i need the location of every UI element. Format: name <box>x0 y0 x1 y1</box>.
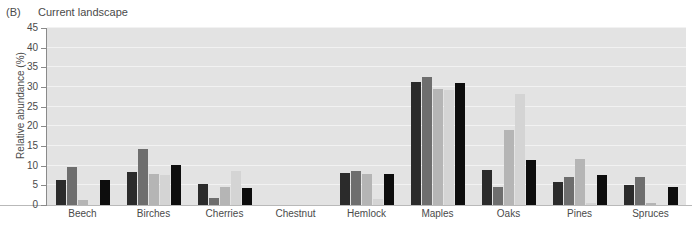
bar <box>67 167 77 205</box>
y-tick-label: 30 <box>0 81 38 92</box>
bar <box>564 177 574 205</box>
y-tick-label: 35 <box>0 61 38 72</box>
y-tick <box>41 205 47 206</box>
bar <box>624 185 634 205</box>
x-tick-label: Oaks <box>473 208 544 219</box>
x-tick-label: Hemlock <box>331 208 402 219</box>
x-axis-line <box>0 205 692 206</box>
bar <box>635 177 645 205</box>
y-tick <box>41 126 47 127</box>
y-tick <box>41 48 47 49</box>
bar <box>100 180 110 205</box>
bar <box>553 182 563 205</box>
bar <box>138 149 148 205</box>
bar <box>242 188 252 205</box>
x-tick-label: Maples <box>402 208 473 219</box>
y-tick <box>41 67 47 68</box>
y-tick <box>41 107 47 108</box>
bar-group <box>544 28 615 205</box>
y-tick <box>41 185 47 186</box>
bar-group <box>331 28 402 205</box>
bar <box>231 171 241 205</box>
chart-figure: (B) Current landscape Relative abundance… <box>0 0 692 232</box>
y-tick <box>41 87 47 88</box>
bar <box>198 184 208 205</box>
y-tick-label: 45 <box>0 22 38 33</box>
bar <box>127 172 137 205</box>
y-tick-label: 10 <box>0 160 38 171</box>
bar <box>56 180 66 205</box>
bar <box>597 175 607 205</box>
x-tick-label: Birches <box>118 208 189 219</box>
x-tick-label: Chestnut <box>260 208 331 219</box>
bar <box>171 165 181 205</box>
bar <box>362 174 372 205</box>
bar <box>493 187 503 205</box>
bar <box>220 187 230 205</box>
bar-group <box>47 28 118 205</box>
y-tick-label: 0 <box>0 199 38 210</box>
bar <box>422 77 432 205</box>
bar-group <box>189 28 260 205</box>
bar <box>515 94 525 205</box>
y-tick-label: 15 <box>0 140 38 151</box>
bar <box>351 171 361 205</box>
bar-group <box>473 28 544 205</box>
panel-title: Current landscape <box>38 6 128 18</box>
y-tick-label: 20 <box>0 120 38 131</box>
bar <box>504 130 514 205</box>
y-tick-label: 40 <box>0 42 38 53</box>
bar <box>149 174 159 205</box>
bar <box>209 198 219 205</box>
bar-group <box>402 28 473 205</box>
x-tick-label: Beech <box>47 208 118 219</box>
plot-area <box>47 28 686 205</box>
bar <box>575 159 585 205</box>
bar <box>444 90 454 205</box>
bar <box>433 89 443 205</box>
y-axis-line <box>46 28 47 206</box>
bar <box>526 160 536 205</box>
bar-group <box>118 28 189 205</box>
bar-group <box>260 28 331 205</box>
y-tick <box>41 28 47 29</box>
x-tick-label: Cherries <box>189 208 260 219</box>
y-tick-label: 25 <box>0 101 38 112</box>
y-tick <box>41 146 47 147</box>
bar <box>482 170 492 205</box>
x-tick-label: Spruces <box>615 208 686 219</box>
bar <box>411 82 421 205</box>
bar <box>340 173 350 205</box>
y-tick <box>41 166 47 167</box>
bar <box>668 187 678 205</box>
y-tick-label: 5 <box>0 179 38 190</box>
bar-group <box>615 28 686 205</box>
bar <box>384 174 394 205</box>
x-tick-label: Pines <box>544 208 615 219</box>
bar <box>455 83 465 205</box>
bar <box>160 175 170 205</box>
